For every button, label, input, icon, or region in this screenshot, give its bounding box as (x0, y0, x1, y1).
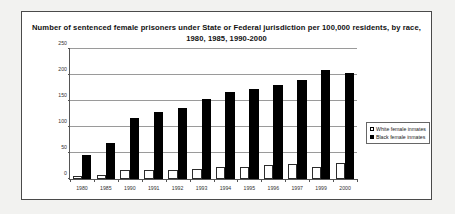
legend-swatch-white (370, 127, 374, 131)
y-tick-label: 50 (61, 144, 67, 150)
x-tick-mark (285, 179, 286, 182)
x-tick-mark (94, 179, 95, 182)
x-tick-label: 1990 (124, 185, 136, 191)
bar-black-female (321, 70, 330, 179)
bar-black-female (273, 85, 282, 179)
bar-black-female (130, 118, 139, 179)
bar-group (97, 49, 116, 179)
bar-white-female (336, 163, 345, 179)
x-tick-label: 1995 (244, 185, 256, 191)
bar-black-female (297, 80, 306, 179)
bar-group (168, 49, 187, 179)
bar-white-female (73, 176, 82, 179)
x-tick-label: 1993 (196, 185, 208, 191)
bar-group (216, 49, 235, 179)
x-tick-mark (309, 179, 310, 182)
x-tick-mark (357, 179, 358, 182)
chart-legend: White female inmatesBlack female inmates (366, 122, 430, 144)
bar-black-female (249, 89, 258, 179)
x-tick-label: 1985 (100, 185, 112, 191)
x-tick-mark (214, 179, 215, 182)
bar-white-female (312, 167, 321, 179)
bar-black-female (225, 92, 234, 179)
x-tick-label: 1997 (291, 185, 303, 191)
x-tick-label: 1991 (148, 185, 160, 191)
bar-black-female (202, 99, 211, 179)
bar-white-female (288, 164, 297, 179)
bar-black-female (178, 108, 187, 179)
y-tick-label: 0 (64, 170, 67, 176)
bar-white-female (216, 167, 225, 179)
x-tick-mark (190, 179, 191, 182)
bar-group (312, 49, 331, 179)
bar-white-female (144, 170, 153, 179)
x-tick-label: 2000 (339, 185, 351, 191)
bar-black-female (82, 155, 91, 179)
figure-frame: Number of sentenced female prisoners und… (21, 11, 432, 200)
x-tick-label: 1992 (172, 185, 184, 191)
x-tick-mark (142, 179, 143, 182)
bar-white-female (120, 170, 129, 179)
bar-group (240, 49, 259, 179)
bar-white-female (192, 169, 201, 179)
x-tick-label: 1994 (220, 185, 232, 191)
x-tick-label: 1980 (76, 185, 88, 191)
bar-group (288, 49, 307, 179)
bar-white-female (240, 167, 249, 179)
chart-screenshot: Number of sentenced female prisoners und… (0, 0, 455, 214)
y-tick-label: 250 (58, 40, 67, 46)
x-tick-label: 1996 (268, 185, 280, 191)
bar-black-female (154, 112, 163, 179)
bar-black-female (345, 73, 354, 179)
y-tick-label: 200 (58, 66, 67, 72)
chart-title: Number of sentenced female prisoners und… (32, 23, 421, 45)
bar-group (120, 49, 139, 179)
legend-label: Black female inmates (376, 133, 425, 141)
x-tick-mark (333, 179, 334, 182)
bar-white-female (97, 175, 106, 179)
legend-item: White female inmates (370, 125, 426, 133)
x-tick-mark (166, 179, 167, 182)
bar-group (144, 49, 163, 179)
bar-group (73, 49, 92, 179)
legend-label: White female inmates (376, 125, 426, 133)
bar-white-female (168, 170, 177, 179)
y-tick-label: 150 (58, 92, 67, 98)
y-tick-label: 100 (58, 118, 67, 124)
bars-layer (70, 49, 357, 179)
bar-group (336, 49, 355, 179)
x-tick-label: 1999 (315, 185, 327, 191)
x-tick-mark (237, 179, 238, 182)
bar-group (192, 49, 211, 179)
x-tick-mark (70, 179, 71, 182)
bar-black-female (106, 143, 115, 179)
plot-area: 050100150200250 198019851990199119921993… (69, 49, 357, 180)
x-tick-mark (261, 179, 262, 182)
bar-white-female (264, 165, 273, 179)
legend-swatch-black (370, 135, 374, 139)
legend-item: Black female inmates (370, 133, 426, 141)
bar-group (264, 49, 283, 179)
x-tick-mark (118, 179, 119, 182)
